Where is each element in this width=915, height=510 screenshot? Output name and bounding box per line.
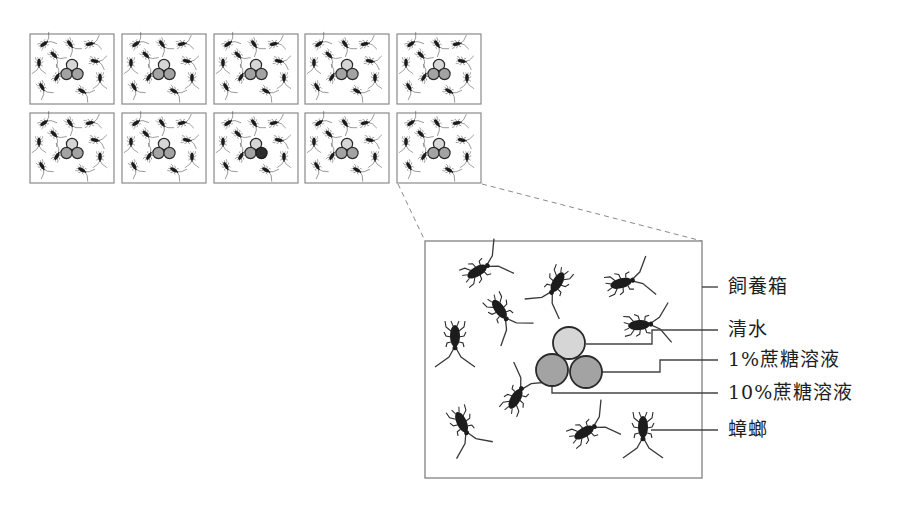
label-sucrose-1: 1%蔗糖溶液 xyxy=(728,350,840,369)
label-sucrose-10: 10%蔗糖溶液 xyxy=(728,383,853,402)
container-box-5 xyxy=(397,32,481,104)
container-box-10 xyxy=(397,111,481,183)
box-grid xyxy=(30,32,481,183)
zoom-indicator-lines xyxy=(398,184,702,241)
sucrose-1-dish xyxy=(570,356,602,388)
label-water: 清水 xyxy=(728,320,768,339)
container-box-8 xyxy=(214,111,298,183)
container-box-1 xyxy=(30,32,114,104)
container-box-4 xyxy=(305,32,389,104)
label-cockroach: 蟑螂 xyxy=(728,420,768,439)
container-box-7 xyxy=(122,111,206,183)
container-box-2 xyxy=(122,32,206,104)
diagram-canvas xyxy=(0,0,915,510)
container-box-3 xyxy=(214,32,298,104)
label-container: 飼養箱 xyxy=(728,277,788,296)
sucrose-10-dish xyxy=(536,354,568,386)
container-box-9 xyxy=(305,111,389,183)
detail-container-box xyxy=(425,239,718,478)
container-box-6 xyxy=(30,111,114,183)
